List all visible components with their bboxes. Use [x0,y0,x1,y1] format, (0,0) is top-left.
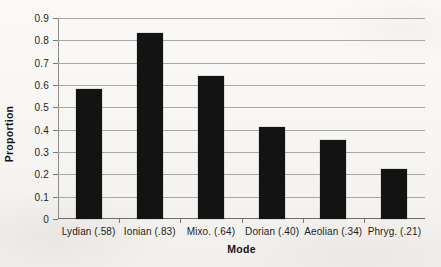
y-axis-tick [53,130,58,131]
y-axis-tick [53,219,58,220]
y-axis-tick-label: 0.6 [34,80,49,91]
gridline [58,107,425,108]
x-axis-title: Mode [58,243,425,255]
gridline [58,197,425,198]
y-axis-line [58,18,59,219]
gridline [58,85,425,86]
x-axis-tick-label: Ionian (.83) [124,226,176,237]
x-axis-tick-label: Lydian (.58) [62,226,116,237]
y-axis-tick [53,174,58,175]
gridline [58,18,425,19]
y-axis-title: Proportion [3,105,15,162]
y-axis-tick-label: 0.3 [34,147,49,158]
y-axis-tick-label: 0.2 [34,169,49,180]
x-axis-tick-label: Dorian (.40) [245,226,299,237]
y-axis-tick [53,18,58,19]
y-axis-tick [53,85,58,86]
y-axis-tick-label: 0.4 [34,124,49,135]
x-axis-tick [364,219,365,223]
gridline [58,174,425,175]
gridline [58,130,425,131]
bar [381,169,407,219]
y-axis-tick [53,152,58,153]
x-axis-tick [119,219,120,223]
x-axis-tick [242,219,243,223]
plot-area: 0.90.80.70.60.50.40.30.20.10Lydian (.58)… [58,18,425,219]
bar [259,127,285,219]
gridline [58,152,425,153]
y-axis-tick-label: 0.5 [34,102,49,113]
bar [76,89,102,219]
x-axis-tick-label: Aeolian (.34) [304,226,362,237]
y-axis-tick [53,197,58,198]
x-axis-tick [303,219,304,223]
y-axis-tick-label: 0 [43,214,49,225]
y-axis-tick [53,63,58,64]
y-axis-tick-label: 0.1 [34,191,49,202]
y-axis-tick [53,40,58,41]
y-axis-tick-label: 0.8 [34,35,49,46]
y-axis-tick-label: 0.9 [34,13,49,24]
chart-figure: Proportion Mode 0.90.80.70.60.50.40.30.2… [0,0,441,267]
bar [320,140,346,219]
y-axis-tick [53,107,58,108]
x-axis-tick [180,219,181,223]
x-axis-tick-label: Mixo. (.64) [187,226,235,237]
gridline [58,63,425,64]
bar [198,76,224,219]
bar [137,33,163,219]
gridline [58,40,425,41]
x-axis-tick-label: Phryg. (.21) [368,226,421,237]
y-axis-tick-label: 0.7 [34,57,49,68]
